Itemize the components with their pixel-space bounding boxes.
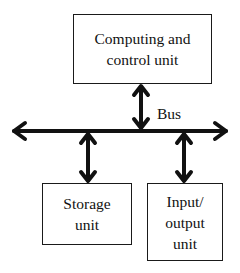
bus-label: Bus: [157, 105, 181, 123]
storage-unit-label: Storage unit: [63, 193, 110, 235]
computing-control-unit-label: Computing and control unit: [94, 28, 190, 70]
storage-unit-box: Storage unit: [42, 183, 132, 245]
input-output-unit-box: Input/ output unit: [147, 183, 223, 261]
computing-control-unit-box: Computing and control unit: [73, 14, 212, 84]
input-output-unit-label: Input/ output unit: [165, 191, 205, 254]
